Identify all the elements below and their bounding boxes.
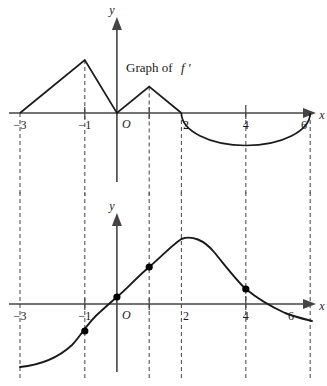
marked-point-x-0 — [113, 293, 120, 300]
caption-text: Graph of — [126, 60, 173, 75]
bottom-graph-panel: y x O −3 −1 2 4 6 — [9, 192, 325, 380]
marked-point-x-1 — [146, 263, 153, 270]
calculus-figure: y x O −3 −1 2 4 6 Graph of f ′ — [0, 0, 327, 386]
f-curve-marked-points — [81, 263, 249, 334]
top-graph-panel: y x O −3 −1 2 4 6 Graph of f ′ — [9, 3, 325, 196]
bottom-graph-y-axis-label: y — [108, 199, 115, 213]
top-tick-label-neg3: −3 — [14, 118, 27, 132]
top-graph-origin-label: O — [122, 117, 131, 131]
top-graph-tick-marks — [85, 105, 246, 119]
bottom-tick-label-neg1: −1 — [78, 309, 91, 323]
bottom-graph-y-axis — [112, 213, 122, 372]
top-graph-gridlines — [20, 60, 310, 196]
f-curve — [20, 238, 312, 367]
bottom-tick-label-6: 6 — [288, 309, 294, 323]
bottom-graph-x-axis — [9, 299, 316, 309]
top-graph-y-axis — [112, 17, 122, 182]
bottom-tick-label-2: 2 — [183, 309, 189, 323]
bottom-graph-x-axis-label: x — [318, 299, 325, 313]
caption-function-label: f ′ — [181, 60, 191, 75]
top-tick-label-neg1: −1 — [78, 118, 91, 132]
top-tick-label-2: 2 — [183, 118, 189, 132]
top-graph-y-axis-label: y — [108, 3, 115, 17]
top-tick-label-6: 6 — [301, 118, 307, 132]
graph-of-f-prime-caption: Graph of f ′ — [126, 60, 191, 75]
top-graph-x-axis-label: x — [318, 108, 325, 122]
top-tick-label-4: 4 — [243, 118, 249, 132]
top-graph-x-axis — [9, 108, 316, 118]
bottom-tick-label-neg3: −3 — [14, 309, 27, 323]
bottom-graph-origin-label: O — [122, 308, 131, 322]
marked-point-x-4 — [242, 285, 249, 292]
figure-svg: y x O −3 −1 2 4 6 Graph of f ′ — [0, 0, 327, 386]
marked-point-x-neg1 — [81, 327, 88, 334]
bottom-tick-label-4: 4 — [243, 309, 249, 323]
